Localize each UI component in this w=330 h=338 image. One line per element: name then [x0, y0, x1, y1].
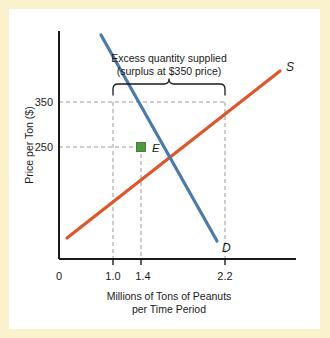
x-axis-title-line1: Millions of Tons of Peanuts [107, 290, 232, 302]
chart-canvas: 350 250 0 1.0 1.4 2.2 Price per Ton ($) … [9, 9, 320, 329]
y-tick-label-350: 350 [35, 96, 53, 108]
figure-frame: 350 250 0 1.0 1.4 2.2 Price per Ton ($) … [0, 0, 330, 338]
supply-curve [67, 71, 280, 238]
y-axis-title: Price per Ton ($) [23, 106, 35, 183]
surplus-annotation-line2: (surplus at $350 price) [117, 65, 221, 77]
x-tick-label-2.2: 2.2 [217, 270, 232, 282]
y-tick-label-250: 250 [35, 141, 53, 153]
x-axis-title-line2: per Time Period [132, 303, 206, 315]
equilibrium-label: E [152, 142, 160, 154]
demand-curve-label: D [222, 241, 231, 255]
x-tick-label-1.0: 1.0 [105, 270, 120, 282]
x-tick-label-1.4: 1.4 [135, 270, 150, 282]
surplus-annotation-line1: Excess quantity supplied [111, 52, 227, 64]
supply-curve-label: S [286, 60, 294, 74]
equilibrium-marker [137, 143, 146, 152]
supply-demand-chart: 350 250 0 1.0 1.4 2.2 Price per Ton ($) … [9, 9, 320, 329]
x-tick-label-0: 0 [56, 270, 62, 282]
